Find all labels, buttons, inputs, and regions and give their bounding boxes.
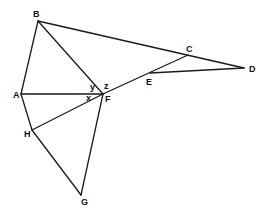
label-C: C [186, 44, 193, 54]
segment-GF [81, 94, 103, 195]
segment-FC [103, 55, 188, 94]
label-G: G [81, 197, 88, 207]
point-labels-group: A B C D E F G H [13, 9, 256, 207]
segment-HG [32, 130, 81, 195]
angle-label-y: y [90, 82, 95, 92]
angle-label-x: x [86, 93, 91, 103]
label-A: A [13, 90, 20, 100]
segments-group [21, 21, 244, 195]
label-E: E [146, 77, 152, 87]
label-B: B [33, 9, 40, 19]
segment-AH [21, 94, 32, 130]
segment-BD [38, 21, 244, 68]
label-H: H [24, 129, 31, 139]
label-D: D [249, 64, 256, 74]
label-F: F [105, 94, 111, 104]
segment-HF [32, 94, 103, 130]
segment-AB [21, 21, 38, 94]
geometry-diagram: A B C D E F G H x y z [0, 0, 267, 218]
segment-ED [150, 68, 244, 73]
angle-label-z: z [104, 81, 109, 91]
